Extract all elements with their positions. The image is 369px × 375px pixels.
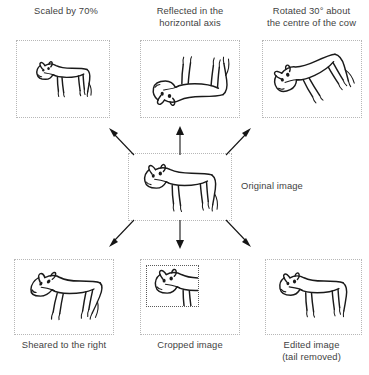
cow-reflected-icon	[145, 48, 237, 112]
arrow-up-right	[224, 127, 252, 157]
cow-edited-icon	[272, 267, 356, 325]
crop-selection-box[interactable]	[146, 265, 199, 307]
cow-drawing-icon	[15, 260, 113, 334]
cow-drawing-icon	[141, 41, 239, 117]
arrow-down-right	[224, 218, 252, 248]
arrow-up	[174, 126, 186, 156]
figure-canvas: Scaled by 70% Reflected in the horizonta…	[0, 0, 369, 375]
cow-drawing-icon	[266, 260, 361, 334]
panel-caption-sheared: Sheared to the right	[4, 339, 124, 351]
panel-caption-cropped: Cropped image	[132, 339, 248, 351]
panel-caption-rotated: Rotated 30° about the centre of the cow	[254, 5, 369, 30]
cow-drawing-icon	[129, 154, 231, 220]
cow-drawing-icon	[17, 41, 109, 117]
panel-caption-reflected: Reflected in the horizontal axis	[132, 5, 248, 30]
panel-frame-reflected[interactable]	[140, 40, 240, 118]
cow-scaled-icon	[31, 57, 97, 103]
panel-frame-edited[interactable]	[265, 259, 362, 335]
panel-frame-sheared[interactable]	[14, 259, 114, 335]
original-image-label: Original image	[241, 180, 357, 192]
panel-frame-rotated[interactable]	[262, 40, 362, 118]
cow-cropped-icon	[147, 265, 199, 307]
cow-rotated-icon	[260, 33, 366, 126]
arrow-down	[174, 219, 186, 249]
panel-frame-cropped[interactable]	[140, 259, 240, 335]
panel-frame-original[interactable]	[128, 153, 232, 221]
panel-caption-scaled: Scaled by 70%	[6, 5, 126, 17]
panel-caption-edited: Edited image (tail removed)	[254, 339, 369, 364]
cow-drawing-icon	[263, 41, 361, 117]
cow-sheared-icon	[11, 266, 119, 328]
cow-original-icon	[137, 158, 225, 220]
panel-frame-scaled[interactable]	[16, 40, 110, 118]
arrow-up-left	[108, 127, 136, 157]
arrow-down-left	[108, 218, 136, 248]
